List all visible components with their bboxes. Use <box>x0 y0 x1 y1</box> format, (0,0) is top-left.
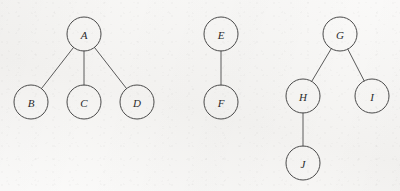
diagram-canvas: ABCDEFGHIJ <box>0 0 400 191</box>
node-label-g: G <box>336 29 344 41</box>
node-label-a: A <box>80 29 88 41</box>
node-h[interactable]: H <box>286 79 320 113</box>
node-d[interactable]: D <box>120 85 154 119</box>
node-label-i: I <box>369 91 375 103</box>
node-label-b: B <box>28 97 35 109</box>
node-label-c: C <box>80 97 88 109</box>
edge-a-b <box>41 47 73 88</box>
node-c[interactable]: C <box>67 85 101 119</box>
edge-g-h <box>312 49 332 82</box>
node-j[interactable]: J <box>286 146 320 180</box>
node-g[interactable]: G <box>323 17 357 51</box>
node-label-j: J <box>301 158 307 170</box>
node-b[interactable]: B <box>14 85 48 119</box>
node-i[interactable]: I <box>355 79 389 113</box>
node-label-h: H <box>298 91 308 103</box>
edge-a-d <box>94 47 126 88</box>
nodes-layer: ABCDEFGHIJ <box>14 17 389 180</box>
node-label-f: F <box>217 97 225 109</box>
edges-layer <box>41 47 364 146</box>
node-e[interactable]: E <box>204 17 238 51</box>
graph-svg: ABCDEFGHIJ <box>0 0 400 191</box>
edge-g-i <box>348 49 364 81</box>
node-a[interactable]: A <box>67 17 101 51</box>
node-f[interactable]: F <box>204 85 238 119</box>
node-label-d: D <box>132 97 141 109</box>
node-label-e: E <box>217 29 225 41</box>
